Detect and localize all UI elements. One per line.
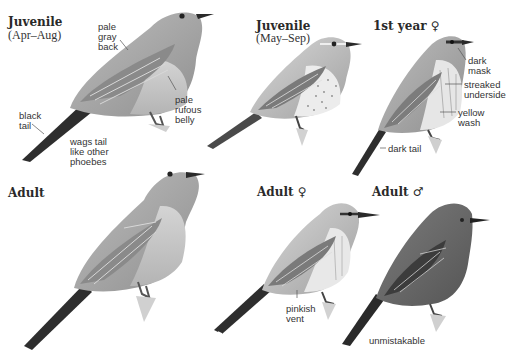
note-pinkish-vent: pinkish vent bbox=[286, 304, 316, 324]
note-black-tail: black tail bbox=[19, 111, 41, 131]
heading-adult: Adult bbox=[8, 187, 45, 200]
note-streaked-underside: streaked underside bbox=[464, 80, 506, 100]
note-pale-rufous-belly: pale rufous belly bbox=[175, 95, 201, 125]
bird-juvenile-may-sep bbox=[207, 37, 362, 149]
subheading-may-sep: (May–Sep) bbox=[256, 32, 310, 45]
heading-first-year-female: 1st year ♀ bbox=[373, 20, 439, 33]
heading-adult-male: Adult ♂ bbox=[372, 186, 423, 199]
note-dark-tail: dark tail bbox=[388, 144, 421, 154]
bird-adult-male bbox=[342, 204, 490, 347]
note-pale-gray-back: pale gray back bbox=[98, 22, 118, 52]
bird-adult bbox=[24, 171, 205, 350]
note-unmistakable: unmistakable bbox=[369, 336, 425, 346]
bird-first-year-female bbox=[352, 36, 474, 176]
note-dark-mask: dark mask bbox=[468, 56, 491, 76]
bird-illustrations bbox=[0, 0, 508, 357]
note-yellow-wash: yellow wash bbox=[458, 108, 484, 128]
heading-adult-female: Adult ♀ bbox=[257, 186, 306, 199]
note-wags-tail: wags tail like other phoebes bbox=[70, 137, 109, 167]
field-guide-plate: Juvenile (Apr–Aug) Juvenile (May–Sep) 1s… bbox=[0, 0, 508, 357]
subheading-apr-aug: (Apr–Aug) bbox=[8, 29, 61, 42]
